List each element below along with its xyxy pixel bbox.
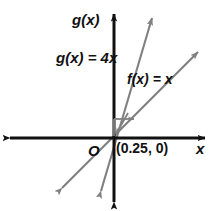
y-axis-label: g(x) — [72, 12, 100, 27]
origin-label: O — [88, 143, 100, 158]
point-coordinate-label: (0.25, 0) — [116, 141, 168, 155]
x-axis-label: x — [196, 141, 204, 156]
f-equation-label: f(x) = x — [127, 72, 173, 86]
coordinate-plane-svg — [0, 0, 215, 211]
graph-figure: g(x) g(x) = 4x f(x) = x O (0.25, 0) x — [0, 0, 215, 211]
g-equation-label: g(x) = 4x — [56, 50, 117, 65]
